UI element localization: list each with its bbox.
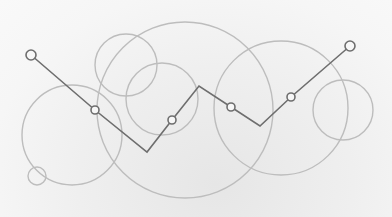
node-circle-icon: [287, 93, 295, 101]
outline-circle: [22, 85, 122, 185]
node-circle-icon: [345, 41, 355, 51]
abstract-network-graphic: [0, 0, 392, 217]
node-circle-icon: [227, 103, 235, 111]
outline-circle: [313, 80, 373, 140]
background-circles: [22, 22, 373, 198]
outline-circle: [97, 22, 273, 198]
zigzag-line: [31, 46, 350, 152]
node-circle-icon: [26, 50, 36, 60]
node-circle-icon: [91, 106, 99, 114]
node-circle-icon: [168, 116, 176, 124]
outline-circle: [95, 34, 157, 96]
line-nodes: [26, 41, 355, 124]
outline-circle: [126, 63, 198, 135]
illustration-canvas: [0, 0, 392, 217]
